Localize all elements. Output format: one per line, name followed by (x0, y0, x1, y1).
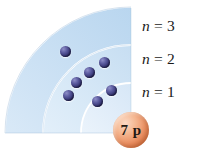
electron-n2-1 (99, 57, 110, 68)
bohr-model-figure: 7 p n = 3 n = 2 n = 1 (0, 0, 203, 156)
electron-n1-1 (106, 85, 117, 96)
shell-label-n1-value: 1 (167, 83, 175, 100)
shell-label-n2-equals: = (154, 50, 163, 67)
electron-n3-1 (60, 46, 71, 57)
nucleus-label: 7 p (120, 122, 141, 137)
shell-label-n2-value: 2 (167, 50, 175, 67)
shell-label-n3-equals: = (154, 17, 163, 34)
shell-label-n1: n = 1 (142, 84, 175, 100)
shell-label-n3-value: 3 (167, 17, 175, 34)
electron-n1-2 (92, 96, 103, 107)
electron-n2-2 (84, 67, 95, 78)
shell-label-n1-equals: = (154, 83, 163, 100)
shell-label-n2: n = 2 (142, 51, 175, 67)
shell-label-n2-variable: n (142, 50, 150, 67)
shell-label-n3: n = 3 (142, 18, 175, 34)
electron-n2-3 (71, 77, 82, 88)
shell-label-n1-variable: n (142, 83, 150, 100)
shell-label-n3-variable: n (142, 17, 150, 34)
nucleus: 7 p (113, 112, 149, 148)
electron-n2-4 (63, 90, 74, 101)
